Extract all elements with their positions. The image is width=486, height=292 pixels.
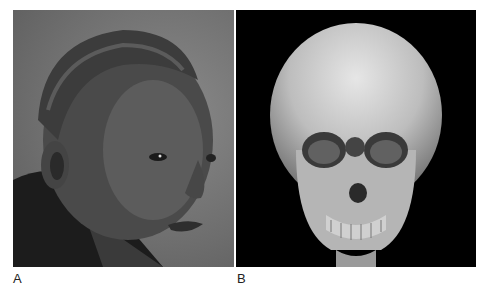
panel-label-b: B bbox=[237, 271, 246, 286]
panel-label-a: A bbox=[13, 271, 22, 286]
panel-b-ct-skull bbox=[236, 10, 476, 267]
skull-3d-image bbox=[236, 10, 476, 267]
panel-a-photo bbox=[13, 10, 234, 267]
child-portrait-image bbox=[13, 10, 234, 267]
